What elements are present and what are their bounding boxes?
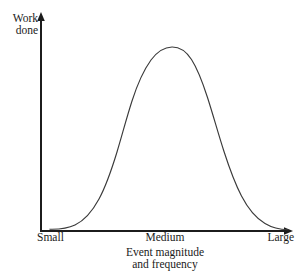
x-axis-label-line2: and frequency [35, 258, 295, 270]
y-axis-label-line2: done [0, 24, 38, 36]
x-tick-label-small: Small [37, 231, 64, 243]
work-done-curve [50, 47, 288, 230]
y-axis-label-line1: Work [0, 12, 38, 24]
x-tick-label-large: Large [232, 231, 294, 243]
y-axis-label: Work done [0, 12, 38, 37]
y-axis-arrow-icon [37, 12, 45, 21]
chart-figure: Work done Small Medium Large Event magni… [0, 0, 305, 280]
x-axis-label: Event magnitude and frequency [35, 246, 295, 271]
x-tick-label-medium: Medium [105, 231, 225, 243]
x-axis-label-line1: Event magnitude [35, 246, 295, 258]
